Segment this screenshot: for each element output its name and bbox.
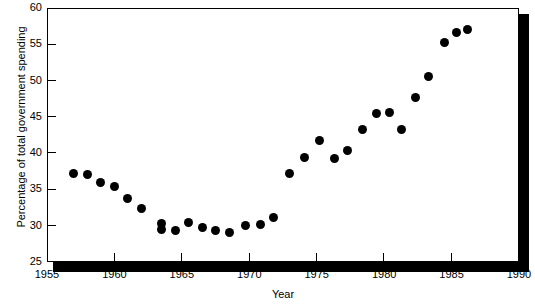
plot-frame [47,8,519,262]
data-point [137,204,146,213]
y-axis-tick-label: 60 [16,2,42,13]
x-axis-tick [181,253,182,262]
x-axis-tick [249,253,250,262]
data-point [184,218,193,227]
data-point [225,228,234,237]
data-point [198,223,207,232]
data-point [372,109,381,118]
data-point [110,182,119,191]
x-axis-tick-label: 1985 [432,268,472,280]
x-axis-title: Year [47,288,519,301]
data-point [358,125,367,134]
y-axis-tick [47,44,56,45]
y-axis-tick-label: 40 [16,147,42,158]
y-axis-tick-label: 30 [16,220,42,231]
y-axis-tick [47,116,56,117]
x-axis-tick [451,253,452,262]
frame-shadow-right [519,14,529,268]
x-axis-tick [383,253,384,262]
y-axis-tick [47,152,56,153]
y-axis-tick-label: 25 [16,256,42,267]
y-axis-tick-label: 50 [16,75,42,86]
y-axis-tick-label: 45 [16,111,42,122]
y-axis-tick-label: 35 [16,183,42,194]
data-point [157,225,166,234]
y-axis-tick-label: 55 [16,38,42,49]
x-axis-tick-label: 1955 [27,268,67,280]
data-point [343,146,352,155]
x-axis-tick-label: 1980 [364,268,404,280]
scatter-chart: Percentage of total government spending … [0,0,535,306]
y-axis-tick [47,225,56,226]
x-axis-tick-label: 1965 [162,268,202,280]
y-axis-tick [47,189,56,190]
x-axis-tick-label: 1975 [297,268,337,280]
data-point [269,213,278,222]
x-axis-tick [316,253,317,262]
y-axis-tick [47,80,56,81]
x-axis-tick-label: 1970 [229,268,269,280]
x-axis-tick [114,253,115,262]
data-point [241,221,250,230]
x-axis-tick-label: 1960 [94,268,134,280]
x-axis-tick-label: 1990 [499,268,535,280]
data-point [385,108,394,117]
data-point [300,153,309,162]
data-point [171,226,180,235]
